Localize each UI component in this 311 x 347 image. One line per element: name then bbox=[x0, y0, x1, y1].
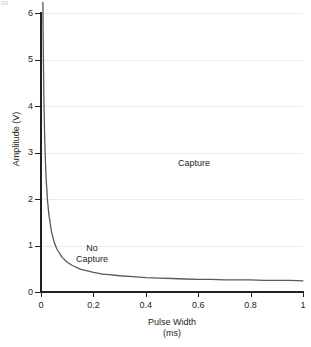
strength-duration-curve bbox=[43, 2, 303, 281]
annotation-capture: Capture bbox=[152, 158, 236, 169]
annotation-no-capture: No Capture bbox=[57, 243, 127, 265]
strength-duration-chart: 6 5 4 3 2 1 0 0 0.2 0.4 0.6 0.8 1 Amplit… bbox=[0, 0, 311, 347]
curve-layer bbox=[0, 0, 311, 347]
